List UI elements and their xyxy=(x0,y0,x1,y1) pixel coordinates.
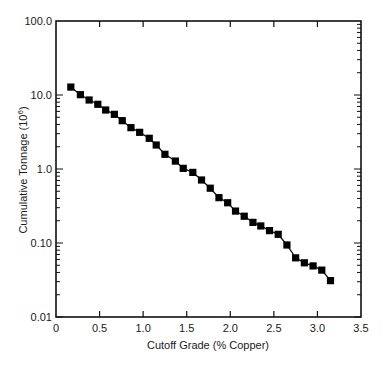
square-marker xyxy=(146,135,153,142)
x-tick-label: 2.5 xyxy=(266,322,281,334)
square-marker xyxy=(283,241,290,248)
square-marker xyxy=(309,262,316,269)
square-marker xyxy=(127,124,134,131)
square-marker xyxy=(292,254,299,261)
x-axis-title: Cutoff Grade (% Copper) xyxy=(147,339,269,351)
plot-frame xyxy=(56,21,361,317)
square-marker xyxy=(136,129,143,136)
square-marker xyxy=(198,176,205,183)
square-marker xyxy=(189,169,196,176)
x-tick-label: 1.5 xyxy=(179,322,194,334)
data-series-line xyxy=(71,87,331,281)
square-marker xyxy=(318,267,325,274)
y-tick-label: 10.0 xyxy=(31,89,52,101)
y-axis-title-close: ) xyxy=(17,106,29,110)
square-marker xyxy=(67,83,74,90)
square-marker xyxy=(224,199,231,206)
y-tick-label: 100.0 xyxy=(24,15,52,27)
square-marker xyxy=(257,222,264,229)
square-marker xyxy=(301,259,308,266)
square-marker xyxy=(119,117,126,124)
square-marker xyxy=(275,231,282,238)
square-marker xyxy=(161,151,168,158)
square-marker xyxy=(207,185,214,192)
square-marker xyxy=(111,111,118,118)
series-polyline xyxy=(71,87,331,281)
square-marker xyxy=(94,101,101,108)
square-marker xyxy=(102,106,109,113)
x-tick-label: 0 xyxy=(53,322,59,334)
square-marker xyxy=(249,219,256,226)
square-marker xyxy=(86,96,93,103)
square-marker xyxy=(153,141,160,148)
y-tick-label: 0.01 xyxy=(31,311,52,323)
plot-border xyxy=(56,21,361,317)
x-tick-label: 0.5 xyxy=(92,322,107,334)
x-tick-label: 3.0 xyxy=(310,322,325,334)
y-axis-title: Cumulative Tonnage (106) xyxy=(16,106,30,233)
y-tick-label: 0.10 xyxy=(31,237,52,249)
x-axis-tick-labels: 00.51.01.52.02.53.03.5 xyxy=(53,322,369,334)
square-marker xyxy=(327,277,334,284)
square-marker xyxy=(180,165,187,172)
cutoff-grade-tonnage-chart: 00.51.01.52.02.53.03.5 100.010.01.00.100… xyxy=(0,0,382,365)
y-tick-label: 1.0 xyxy=(37,163,52,175)
square-marker xyxy=(77,91,84,98)
square-marker xyxy=(172,157,179,164)
data-series-markers xyxy=(67,83,334,284)
x-tick-label: 2.0 xyxy=(223,322,238,334)
square-marker xyxy=(232,207,239,214)
y-axis-title-main: Cumulative Tonnage (10 xyxy=(17,115,29,234)
square-marker xyxy=(241,213,248,220)
square-marker xyxy=(215,194,222,201)
x-tick-label: 1.0 xyxy=(135,322,150,334)
x-tick-label: 3.5 xyxy=(353,322,368,334)
square-marker xyxy=(266,227,273,234)
axis-ticks xyxy=(56,21,361,317)
